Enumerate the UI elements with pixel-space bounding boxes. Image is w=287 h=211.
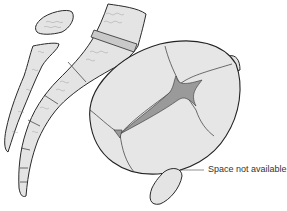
diagram-canvas: Space not available bbox=[0, 0, 287, 211]
annotation-label: Space not available bbox=[208, 164, 287, 174]
anatomy-diagram bbox=[0, 0, 287, 211]
